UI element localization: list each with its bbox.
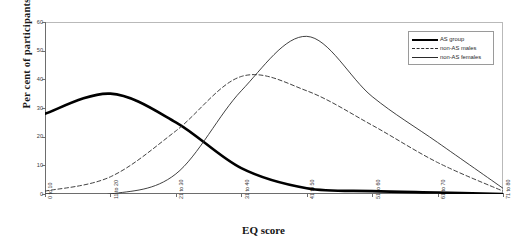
y-tick-label: 30: [0, 105, 43, 111]
x-tick-mark: [438, 194, 439, 197]
legend-item-non-as-females: non-AS females: [412, 52, 490, 61]
x-tick-mark: [241, 194, 242, 197]
x-tick-mark: [307, 194, 308, 197]
x-tick-mark: [503, 194, 504, 197]
legend-label-non-as-males: non-AS males: [438, 45, 476, 51]
x-tick-label: 71 to 80: [505, 180, 511, 199]
y-tick-label: 50: [0, 47, 43, 53]
y-tick-label: 40: [0, 76, 43, 82]
y-tick-label: 10: [0, 162, 43, 168]
x-axis-title: EQ score: [0, 224, 527, 236]
legend-key-dashed-icon: [412, 43, 438, 52]
eq-score-chart: Per cent of participants 0102030405060 0…: [0, 0, 527, 243]
legend-item-as-group: AS group: [412, 34, 490, 43]
series-line-as-group: [45, 94, 503, 194]
y-tick-label: 0: [0, 191, 43, 197]
legend-label-as-group: AS group: [438, 36, 464, 42]
y-tick-label: 20: [0, 133, 43, 139]
series-line-non-as-males: [45, 75, 503, 192]
legend-label-non-as-females: non-AS females: [438, 54, 481, 60]
y-tick-label: 60: [0, 19, 43, 25]
x-tick-mark: [45, 194, 46, 197]
legend-key-thin-solid-icon: [412, 52, 438, 61]
legend-item-non-as-males: non-AS males: [412, 43, 490, 52]
x-tick-mark: [176, 194, 177, 197]
x-tick-mark: [110, 194, 111, 197]
legend-key-thick-solid-icon: [412, 34, 438, 43]
chart-legend: AS group non-AS males non-AS females: [408, 31, 494, 65]
x-tick-mark: [372, 194, 373, 197]
